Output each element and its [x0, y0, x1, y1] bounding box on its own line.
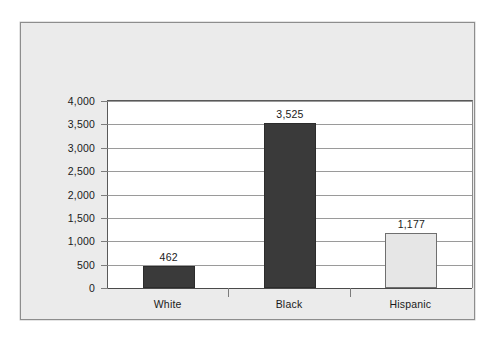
y-axis-tick [101, 124, 108, 125]
bar-value-label: 1,177 [371, 218, 451, 230]
x-axis-category-label: Black [239, 298, 339, 310]
bar-hispanic[interactable] [385, 233, 437, 288]
y-axis-tick [101, 171, 108, 172]
x-axis-category-label: White [118, 298, 218, 310]
x-axis-category-divider [228, 288, 229, 297]
y-axis-tick-label: 2,500 [31, 165, 95, 177]
y-axis-tick-label: 0 [31, 282, 95, 294]
y-axis-tick [101, 195, 108, 196]
y-axis-tick [101, 265, 108, 266]
y-axis-tick-label: 500 [31, 259, 95, 271]
y-axis-tick [101, 241, 108, 242]
y-axis-tick-label: 4,000 [31, 95, 95, 107]
bar-white[interactable] [143, 266, 195, 288]
y-axis-tick-label: 1,500 [31, 212, 95, 224]
plot-area: 05001,0001,5002,0002,5003,0003,5004,0004… [107, 100, 473, 288]
y-axis-tick [101, 148, 108, 149]
y-axis-tick-label: 3,500 [31, 118, 95, 130]
y-axis-tick-label: 2,000 [31, 189, 95, 201]
chart-panel: 05001,0001,5002,0002,5003,0003,5004,0004… [20, 22, 475, 320]
y-axis-tick-label: 3,000 [31, 142, 95, 154]
x-axis-area: WhiteBlackHispanic [107, 288, 471, 321]
y-axis-tick [101, 218, 108, 219]
y-axis-tick-label: 1,000 [31, 235, 95, 247]
x-axis-category-divider [350, 288, 351, 297]
gridline [108, 101, 472, 102]
bar-value-label: 462 [129, 251, 209, 263]
y-axis-tick [101, 101, 108, 102]
x-axis-category-label: Hispanic [360, 298, 460, 310]
bar-black[interactable] [264, 123, 316, 288]
bar-value-label: 3,525 [250, 108, 330, 120]
chart-figure: 05001,0001,5002,0002,5003,0003,5004,0004… [0, 0, 495, 341]
